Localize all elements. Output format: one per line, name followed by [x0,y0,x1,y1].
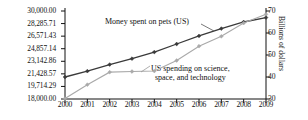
plot-area [0,0,308,120]
chart-container: 18,000.0019,714.2921,428.5723,142.8624,8… [0,0,308,120]
